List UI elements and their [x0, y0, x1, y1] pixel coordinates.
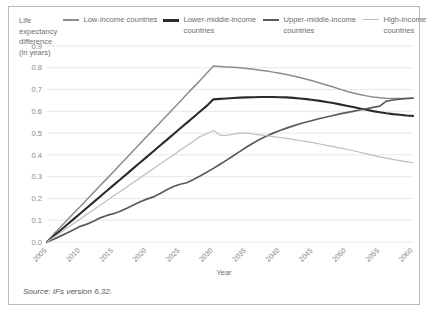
y-axis-tick-label: 0.8: [31, 63, 42, 72]
x-axis-tick-label: 2010: [64, 246, 82, 264]
x-axis-tick-label: 2005: [31, 246, 49, 264]
chart-figure: Life expectancy difference (in years) Lo…: [8, 6, 420, 305]
y-axis-tick-label: 0.9: [31, 42, 42, 51]
x-axis-tick-label: 2050: [330, 246, 348, 264]
y-axis-tick-label: 0.5: [31, 129, 42, 138]
x-axis-tick-label: 2025: [164, 246, 182, 264]
y-axis-tick-label: 0.0: [31, 238, 42, 247]
gridlines: [47, 46, 413, 242]
x-axis-tick-label: 2060: [397, 246, 415, 264]
plot-area: 0.00.10.20.30.40.50.60.70.80.9 200520102…: [9, 7, 421, 306]
y-axis-tick-label: 0.4: [31, 151, 42, 160]
series-line-high-income-countries: [47, 131, 413, 243]
x-axis-tick-label: 2030: [197, 246, 215, 264]
x-axis-tick-label: 2045: [297, 246, 315, 264]
x-axis-tick-label: 2055: [363, 246, 381, 264]
y-axis-tick-labels: 0.00.10.20.30.40.50.60.70.80.9: [31, 42, 42, 247]
y-axis-tick-label: 0.1: [31, 216, 42, 225]
data-series-layer: [47, 66, 413, 242]
line-chart: 0.00.10.20.30.40.50.60.70.80.9 200520102…: [9, 7, 421, 306]
x-axis-tick-labels: 2005201020152020202520302035204020452050…: [31, 246, 415, 264]
y-axis-tick-label: 0.3: [31, 172, 42, 181]
x-axis-tick-label: 2015: [97, 246, 115, 264]
y-axis-tick-label: 0.2: [31, 194, 42, 203]
x-axis-tick-label: 2040: [264, 246, 282, 264]
source-note: Source: IFs version 6.32.: [23, 287, 112, 296]
x-axis-tick-label: 2035: [230, 246, 248, 264]
x-axis-tick-label: 2020: [131, 246, 149, 264]
y-axis-tick-label: 0.7: [31, 85, 42, 94]
x-axis-title: Year: [217, 268, 232, 277]
series-line-low-income-countries: [47, 66, 413, 242]
y-axis-tick-label: 0.6: [31, 107, 42, 116]
